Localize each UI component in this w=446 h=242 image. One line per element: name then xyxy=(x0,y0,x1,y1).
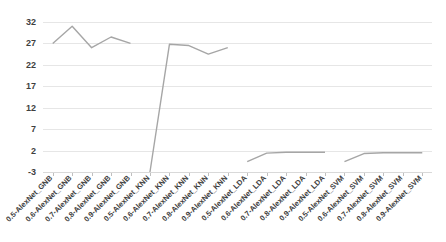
y-axis-tick-label: 27 xyxy=(26,38,36,48)
data-series-line xyxy=(53,26,423,172)
y-axis-tick-label: 17 xyxy=(26,81,36,91)
series-segment-gnb xyxy=(53,26,131,47)
y-axis-tick-label: 2 xyxy=(31,146,36,156)
y-axis-tick-label: 22 xyxy=(26,60,36,70)
y-axis-tick-label: 7 xyxy=(31,124,36,134)
y-axis-tick-label: 32 xyxy=(26,17,36,27)
series-segment-lda xyxy=(247,152,325,161)
line-chart: -3271217222732 0.5-AlexNet_GNB0.6-AlexNe… xyxy=(0,0,446,242)
gridlines xyxy=(43,23,432,173)
y-axis-tick-label: -3 xyxy=(28,167,36,177)
y-axis-tick-label: 12 xyxy=(26,103,36,113)
x-axis-tick-labels: 0.5-AlexNet_GNB0.6-AlexNet_GNB0.7-AlexNe… xyxy=(4,173,424,223)
chart-container: -3271217222732 0.5-AlexNet_GNB0.6-AlexNe… xyxy=(0,0,446,242)
series-segment-svm xyxy=(344,153,422,162)
y-axis-tick-labels: -3271217222732 xyxy=(26,17,36,177)
